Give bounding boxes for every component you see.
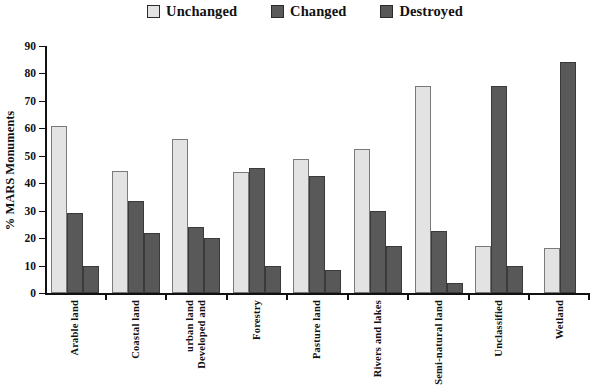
bar [309, 176, 325, 293]
x-axis-label-line: Unclassified [493, 300, 505, 357]
bar-group [166, 46, 227, 293]
x-axis-label: Coastal land [106, 300, 167, 390]
bar-chart: Unchanged Changed Destroyed % MARS Monum… [0, 0, 610, 392]
y-axis-tick-label: 0 [30, 287, 36, 299]
bar [293, 159, 309, 293]
y-axis-tick-label: 20 [25, 232, 37, 244]
bar [51, 126, 67, 293]
y-axis-title-text: % MARS Monuments [4, 111, 19, 230]
x-axis-label-line: Wetland [554, 300, 566, 339]
x-axis-label: Forestry [227, 300, 288, 390]
bar [447, 283, 463, 293]
bar-group [45, 46, 106, 293]
x-axis-tick [528, 293, 530, 300]
bar-group [408, 46, 469, 293]
bar [188, 227, 204, 293]
bar [144, 233, 160, 293]
bar-group [106, 46, 167, 293]
bar [544, 248, 560, 293]
x-axis-tick [165, 293, 167, 300]
x-axis-label: Pasture land [287, 300, 348, 390]
x-axis-label-line: urban land [184, 300, 196, 352]
x-axis-label-line: Semi-natural land [433, 300, 445, 385]
bar [354, 149, 370, 293]
y-axis-title: % MARS Monuments [2, 46, 20, 295]
bar [415, 86, 431, 293]
bar [83, 266, 99, 293]
x-axis-label: Wetland [529, 300, 590, 390]
legend-label-destroyed: Destroyed [399, 4, 462, 19]
x-axis-label: Unclassified [469, 300, 530, 390]
x-axis-label: Rivers and lakes [348, 300, 409, 390]
y-axis-tick-label: 90 [25, 40, 37, 52]
bar [491, 86, 507, 293]
bar [128, 201, 144, 293]
y-axis-tick-label: 80 [25, 67, 37, 79]
x-axis-tick [226, 293, 228, 300]
bar [249, 168, 265, 293]
bar [475, 246, 491, 293]
bar-group [227, 46, 288, 293]
legend-item-destroyed: Destroyed [380, 4, 462, 19]
x-axis-label-line: Arable land [69, 300, 81, 356]
x-axis-label-line: Coastal land [130, 300, 142, 359]
y-axis-tick-label: 40 [25, 177, 37, 189]
bar-group [348, 46, 409, 293]
x-axis-line [45, 293, 590, 295]
y-axis-tick-label: 10 [25, 260, 37, 272]
legend-swatch-changed [271, 5, 284, 18]
y-axis-tick [39, 293, 45, 294]
bar [370, 211, 386, 293]
bar [325, 270, 341, 293]
bar [233, 172, 249, 293]
x-axis-label-line: Pasture land [311, 300, 323, 359]
legend-item-unchanged: Unchanged [147, 4, 237, 19]
x-axis-tick [347, 293, 349, 300]
legend-label-changed: Changed [290, 4, 346, 19]
bar [507, 266, 523, 293]
legend-label-unchanged: Unchanged [166, 4, 237, 19]
x-axis-label-line: Forestry [251, 300, 263, 340]
bar-group [529, 46, 590, 293]
bar-group [469, 46, 530, 293]
bar [67, 213, 83, 293]
bar [204, 238, 220, 293]
y-axis-tick-label: 30 [25, 205, 37, 217]
y-axis-tick-label: 60 [25, 122, 37, 134]
x-axis-tick [468, 293, 470, 300]
legend-swatch-destroyed [380, 5, 393, 18]
bar [112, 171, 128, 293]
bar [265, 266, 281, 293]
bar [386, 246, 402, 293]
bar [431, 231, 447, 293]
legend-item-changed: Changed [271, 4, 346, 19]
x-axis-tick [105, 293, 107, 300]
x-axis-label-line: Rivers and lakes [372, 300, 384, 377]
y-axis-tick-label: 70 [25, 95, 37, 107]
x-axis-label: Semi-natural land [408, 300, 469, 390]
bar [172, 139, 188, 293]
x-axis-labels: Arable landCoastal landDeveloped andurba… [45, 300, 590, 390]
x-axis-label: Developed andurban land [166, 300, 227, 390]
x-axis-tick [286, 293, 288, 300]
plot-area: 0102030405060708090 [45, 46, 590, 295]
x-axis-label: Arable land [45, 300, 106, 390]
chart-legend: Unchanged Changed Destroyed [0, 4, 610, 19]
x-axis-tick [407, 293, 409, 300]
legend-swatch-unchanged [147, 5, 160, 18]
x-axis-tick [588, 293, 590, 300]
x-axis-label-line: Developed and [196, 300, 208, 369]
y-axis-tick-label: 50 [25, 150, 37, 162]
bar-group [287, 46, 348, 293]
bar [560, 62, 576, 293]
